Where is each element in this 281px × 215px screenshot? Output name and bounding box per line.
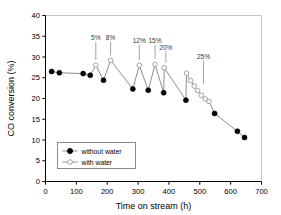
data-point-filled-circle[interactable] [161, 90, 166, 95]
annotation-label-20pct: 20% [159, 44, 172, 51]
chart-figure: 05101520253035400100200300400500600700Ti… [0, 0, 281, 215]
data-point-open-circle[interactable] [207, 99, 212, 104]
series-without-water [49, 69, 247, 140]
y-tick-label-10: 10 [32, 136, 40, 145]
legend-marker-open-circle [68, 160, 73, 165]
y-axis-title: CO conversion (%) [6, 60, 16, 136]
y-tick-label-35: 35 [32, 32, 40, 41]
data-point-open-circle[interactable] [94, 63, 99, 68]
x-tick-label-0: 0 [43, 187, 47, 196]
data-point-filled-circle[interactable] [212, 111, 217, 116]
data-point-filled-circle[interactable] [242, 135, 247, 140]
data-point-open-circle[interactable] [137, 63, 142, 68]
x-tick-label-700: 700 [255, 187, 268, 196]
y-tick-label-30: 30 [32, 53, 40, 62]
series-with-water [94, 58, 212, 104]
data-point-filled-circle[interactable] [57, 70, 62, 75]
data-point-filled-circle[interactable] [183, 98, 188, 103]
y-tick-label-15: 15 [32, 115, 40, 124]
x-tick-label-400: 400 [163, 187, 176, 196]
x-tick-label-200: 200 [101, 187, 114, 196]
data-point-open-circle[interactable] [192, 84, 197, 89]
data-point-filled-circle[interactable] [88, 73, 93, 78]
x-tick-label-100: 100 [70, 187, 83, 196]
annotation-label-25pct: 25% [197, 53, 210, 60]
data-connecting-line [52, 60, 245, 137]
data-point-filled-circle[interactable] [235, 129, 240, 134]
data-point-filled-circle[interactable] [81, 71, 86, 76]
x-tick-label-600: 600 [224, 187, 237, 196]
data-point-filled-circle[interactable] [130, 86, 135, 91]
x-tick-label-300: 300 [132, 187, 145, 196]
data-point-open-circle[interactable] [153, 62, 158, 67]
annotation-label-5pct: 5% [91, 34, 101, 41]
data-point-filled-circle[interactable] [101, 78, 106, 83]
y-tick-label-5: 5 [36, 156, 40, 165]
y-tick-label-0: 0 [36, 177, 40, 186]
legend-marker-filled-circle [68, 149, 73, 154]
data-point-open-circle[interactable] [188, 78, 193, 83]
data-point-open-circle[interactable] [184, 71, 189, 76]
data-point-open-circle[interactable] [195, 88, 200, 93]
annotation-label-8pct: 8% [106, 34, 116, 41]
data-point-open-circle[interactable] [108, 58, 113, 63]
legend-label-1: with water [81, 159, 113, 166]
x-tick-label-500: 500 [193, 187, 206, 196]
x-axis-title: Time on stream (h) [116, 201, 192, 211]
data-point-filled-circle[interactable] [146, 88, 151, 93]
data-point-open-circle[interactable] [162, 65, 167, 70]
y-tick-label-25: 25 [32, 73, 40, 82]
data-point-filled-circle[interactable] [49, 69, 54, 74]
legend-label-0: without water [81, 148, 123, 155]
y-tick-label-20: 20 [32, 94, 40, 103]
data-point-open-circle[interactable] [199, 93, 204, 98]
annotation-label-12pct: 12% [133, 37, 146, 44]
co-conversion-line-chart: 05101520253035400100200300400500600700Ti… [0, 0, 281, 215]
y-tick-label-40: 40 [32, 11, 40, 20]
